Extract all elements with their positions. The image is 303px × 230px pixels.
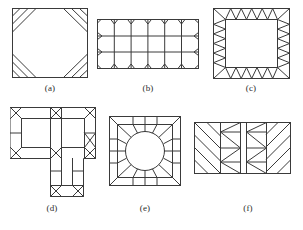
- fig-a-corner-tl-stripes: [13, 9, 29, 25]
- figure-f-drawing: [194, 122, 291, 174]
- fig-d-corner-diagonals: [11, 108, 96, 159]
- fig-f-right-stripes: [267, 123, 291, 174]
- fig-a-outer-square: [13, 9, 88, 78]
- fig-c-zigzag-right: [278, 20, 290, 68]
- figure-e-drawing: [109, 116, 181, 186]
- fig-f-inner-right-zigzag: [247, 123, 267, 174]
- fig-c-zigzag-left: [214, 20, 226, 68]
- fig-c-zigzag-bottom: [214, 68, 290, 79]
- fig-d-leg-corner-diagonals: [51, 186, 84, 197]
- fig-c-zigzag-top: [214, 9, 290, 20]
- fig-a-corner-tr-stripes: [72, 9, 88, 25]
- figure-e-caption: (e): [121, 203, 169, 213]
- figure-f-caption: (f): [224, 203, 272, 213]
- figure-d-caption: (d): [28, 203, 76, 213]
- figure-b-drawing: [97, 19, 199, 69]
- fig-e-radial-spokes: [118, 125, 173, 178]
- figure-c-drawing: [213, 8, 290, 79]
- fig-f-outer-rect: [195, 123, 291, 174]
- figure-d-drawing: [10, 107, 96, 197]
- fig-a-corner-bl-stripes: [13, 62, 29, 78]
- fig-a-corner-br-stripes: [72, 62, 88, 78]
- figure-a-caption: (a): [26, 83, 74, 93]
- fig-f-left-stripes: [195, 123, 221, 174]
- figure-b-caption: (b): [124, 83, 172, 93]
- fig-b-column-lines: [114, 20, 181, 69]
- figure-a-drawing: [12, 8, 88, 78]
- figure-panel: (a): [0, 0, 303, 230]
- figure-c-caption: (c): [227, 83, 275, 93]
- fig-c-inner-square: [226, 20, 278, 68]
- fig-d-outline: [11, 108, 96, 197]
- fig-f-inner-left-zigzag: [221, 123, 241, 174]
